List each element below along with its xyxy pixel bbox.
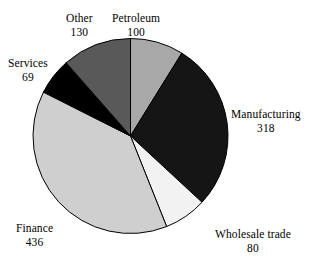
pie-chart: Petroleum 100 Manufacturing 318 Wholesal…	[0, 0, 330, 268]
slice-label-services-value: 69	[8, 71, 48, 85]
slice-label-wholesale-trade: Wholesale trade 80	[215, 228, 291, 255]
slice-label-manufacturing-name: Manufacturing	[231, 108, 301, 122]
pie-slices-group	[33, 39, 228, 234]
slice-label-services-name: Services	[8, 57, 48, 71]
slice-label-wholesale-trade-value: 80	[215, 242, 291, 256]
slice-label-other: Other 130	[66, 12, 93, 39]
slice-label-wholesale-trade-name: Wholesale trade	[215, 228, 291, 242]
slice-label-other-value: 130	[66, 26, 93, 40]
slice-label-manufacturing-value: 318	[231, 122, 301, 136]
slice-label-petroleum: Petroleum 100	[112, 12, 160, 39]
slice-label-services: Services 69	[8, 57, 48, 84]
slice-label-manufacturing: Manufacturing 318	[231, 108, 301, 135]
slice-label-other-name: Other	[66, 12, 93, 26]
slice-label-petroleum-value: 100	[112, 26, 160, 40]
slice-label-finance-value: 436	[16, 236, 53, 250]
slice-label-finance-name: Finance	[16, 222, 53, 236]
slice-label-petroleum-name: Petroleum	[112, 12, 160, 26]
slice-label-finance: Finance 436	[16, 222, 53, 249]
